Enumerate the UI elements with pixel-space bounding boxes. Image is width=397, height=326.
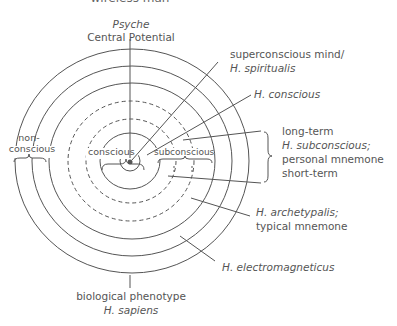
h-electromagneticus-label: H. electromagneticus [222,261,334,274]
central-potential-label: Central Potential [80,31,182,44]
psyche-label: Psyche [100,18,162,31]
subconscious-label: subconscious [154,147,214,158]
long-term-label: long-term [282,125,333,138]
short-term-label: short-term [282,167,338,180]
h-subconscious-label: H. subconscious; [282,139,370,152]
h-archetypalis-label: H. archetypalis; [256,206,338,219]
h-conscious-label: H. conscious [254,88,320,101]
h-sapiens-label: H. sapiens [80,304,182,317]
conscious-label: conscious [88,146,135,157]
typical-mnemone-label: typical mnemone [256,220,348,233]
personal-mnemone-label: personal mnemone [282,153,384,166]
h-spiritualis-label: H. spiritualis [230,62,295,75]
superconscious-mind-label: superconscious mind/ [230,48,344,61]
biological-phenotype-label: biological phenotype [60,290,202,303]
nonconscious-label-line1: non- [12,133,46,143]
nonconscious-label-line2: conscious [8,143,56,154]
